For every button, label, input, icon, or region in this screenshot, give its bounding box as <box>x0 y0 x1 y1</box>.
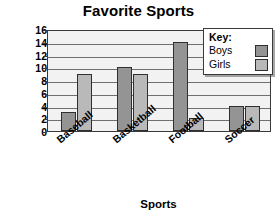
legend-item-boys: Boys <box>209 44 268 57</box>
bar-chart: Favorite Sports Number of Students 02468… <box>0 0 277 220</box>
legend-label-girls: Girls <box>209 58 231 71</box>
x-axis-title: Sports <box>40 198 277 210</box>
legend-label-boys: Boys <box>209 44 232 57</box>
legend-swatch-boys <box>255 45 268 57</box>
bar-football-boys <box>173 42 188 131</box>
legend-title: Key: <box>209 31 268 43</box>
y-axis-ticks: 0246810121416 <box>0 30 47 132</box>
chart-title: Favorite Sports <box>0 2 277 19</box>
legend: Key: Boys Girls <box>203 28 273 75</box>
legend-item-girls: Girls <box>209 58 268 71</box>
y-tick-mark <box>43 132 47 133</box>
legend-swatch-girls <box>255 59 268 71</box>
